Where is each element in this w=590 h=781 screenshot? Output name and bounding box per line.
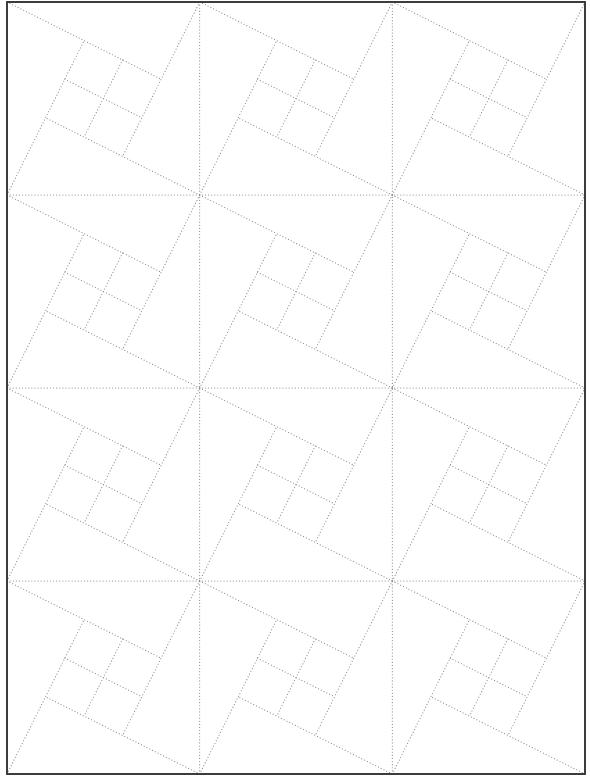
quilt-pattern-canvas [0, 0, 590, 781]
page-background [0, 0, 590, 781]
